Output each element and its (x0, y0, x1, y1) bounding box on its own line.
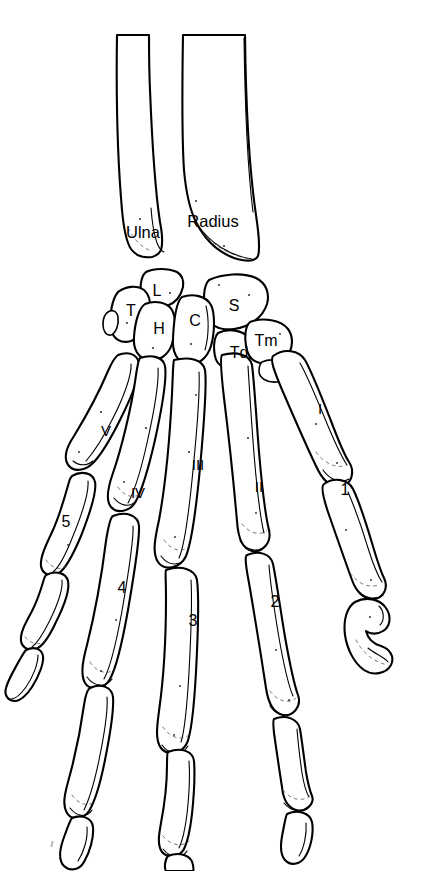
label-trapezoid: Td (230, 345, 249, 361)
label-metacarpal-1: I (318, 401, 322, 416)
label-digit-4: 4 (118, 580, 127, 596)
label-digit-3: 3 (189, 613, 198, 629)
label-scaphoid: S (229, 298, 240, 314)
label-metacarpal-2: II (255, 479, 263, 494)
digit-4-phalanges (60, 514, 139, 869)
metacarpal-2-bone (221, 353, 270, 551)
label-triquetral: T (126, 303, 136, 319)
pisiform-bone (103, 311, 118, 336)
label-digit-2: 2 (271, 594, 280, 610)
metacarpal-1-bone (272, 351, 352, 487)
label-capitate: C (189, 313, 201, 329)
label-digit-1: 1 (341, 482, 350, 498)
label-metacarpal-5: V (101, 423, 111, 438)
label-lunate: L (153, 283, 162, 299)
label-radius: Radius (187, 213, 238, 230)
bone-illustration-canvas (0, 0, 426, 871)
label-trapezium: Tm (254, 333, 277, 349)
label-ulna: Ulna (126, 224, 160, 241)
label-digit-5: 5 (62, 514, 71, 530)
hand-skeleton-figure: Ulna Radius T L H C S Td Tm I II III IV … (0, 0, 426, 871)
label-metacarpal-3: III (192, 457, 205, 472)
label-hamate: H (153, 321, 165, 337)
label-metacarpal-4: IV (131, 485, 145, 500)
digit-1-phalanges (322, 480, 392, 674)
